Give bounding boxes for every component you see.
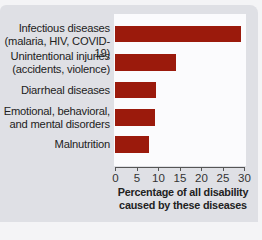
label-line: and mental disorders bbox=[0, 118, 110, 131]
label-line: (accidents, violence) bbox=[0, 63, 110, 76]
x-tick bbox=[137, 167, 138, 171]
axis-title-line: Percentage of all disability bbox=[113, 186, 253, 199]
x-tick bbox=[201, 167, 202, 171]
x-tick-label: 20 bbox=[192, 172, 212, 184]
label-line: Emotional, behavioral, bbox=[0, 105, 110, 118]
x-axis-title: Percentage of all disability caused by t… bbox=[113, 186, 253, 212]
bar-injuries bbox=[115, 54, 176, 71]
x-tick bbox=[244, 167, 245, 171]
axis-title-line: caused by these diseases bbox=[113, 199, 253, 212]
label-line: Infectious diseases bbox=[0, 22, 110, 35]
bar-infectious bbox=[115, 26, 241, 42]
label-line: Unintentional injuries bbox=[0, 50, 110, 63]
category-label-diarrheal: Diarrheal diseases bbox=[0, 84, 110, 97]
x-tick-label: 10 bbox=[149, 172, 169, 184]
x-tick bbox=[223, 167, 224, 171]
label-line: Diarrheal diseases bbox=[0, 84, 110, 97]
x-tick bbox=[115, 167, 116, 171]
x-tick bbox=[158, 167, 159, 171]
category-label-malnutrition: Malnutrition bbox=[0, 138, 110, 151]
bar-diarrheal bbox=[115, 82, 156, 98]
x-tick-label: 5 bbox=[127, 172, 147, 184]
category-label-mental: Emotional, behavioral, and mental disord… bbox=[0, 105, 110, 130]
bar-malnutrition bbox=[115, 136, 149, 153]
x-tick bbox=[180, 167, 181, 171]
x-tick-label: 25 bbox=[213, 172, 233, 184]
x-tick-label: 30 bbox=[235, 172, 255, 184]
x-tick-label: 15 bbox=[170, 172, 190, 184]
x-tick-label: 0 bbox=[106, 172, 126, 184]
category-label-injuries: Unintentional injuries (accidents, viole… bbox=[0, 50, 110, 75]
label-line: Malnutrition bbox=[0, 138, 110, 151]
bar-mental bbox=[115, 109, 155, 126]
